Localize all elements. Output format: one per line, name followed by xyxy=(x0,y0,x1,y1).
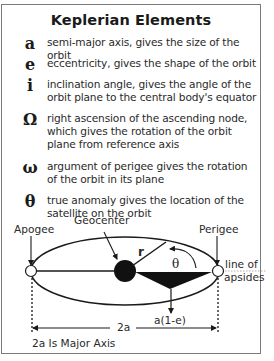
perigee-marker-icon xyxy=(213,266,224,277)
true-anomaly-label: θ xyxy=(172,257,179,271)
major-axis-caption: 2a Is Major Axis xyxy=(32,337,115,349)
perigee-label: Perigee xyxy=(199,223,239,235)
geocenter-label: Geocenter xyxy=(74,214,130,226)
orbit-diagram: Apogee Perigee Geocenter r θ line of aps… xyxy=(0,0,274,361)
major-axis-length-label: 2a xyxy=(117,321,130,333)
radius-label: r xyxy=(138,245,144,259)
line-of-apsides-label-2: apsides xyxy=(224,271,264,283)
perigee-distance-wedge xyxy=(135,272,212,289)
perigee-distance-label: a(1-e) xyxy=(154,314,186,326)
line-of-apsides-label-1: line of xyxy=(225,258,258,270)
geocenter-arrow xyxy=(104,232,117,259)
apogee-label: Apogee xyxy=(14,223,54,235)
apogee-marker-icon xyxy=(26,266,37,277)
geocenter-icon xyxy=(114,260,136,282)
